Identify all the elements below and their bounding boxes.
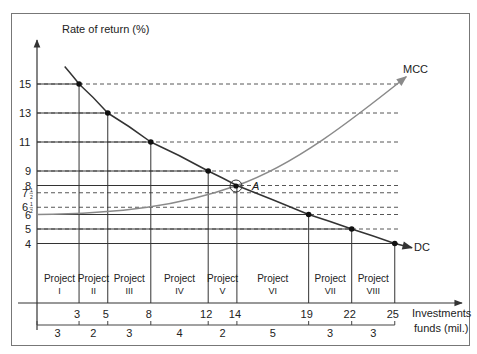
dc-point: [76, 81, 82, 87]
y-tick-label: 15: [19, 78, 31, 90]
y-tick-label: 4: [25, 238, 31, 250]
project-name: Project: [207, 273, 238, 284]
y-tick-label: 13: [19, 107, 31, 119]
dc-point: [306, 212, 312, 218]
project-size: 3: [54, 327, 60, 339]
project-name: Project: [358, 273, 389, 284]
project-size: 3: [126, 327, 132, 339]
project-size: 2: [90, 327, 96, 339]
dc-point: [205, 168, 211, 174]
project-numeral: VII: [325, 286, 336, 296]
project-numeral: VI: [269, 286, 278, 296]
y-axis-label: Rate of return (%): [62, 23, 149, 35]
y-tick-labels: 15131198712612654: [19, 78, 33, 250]
x-tick-label: 14: [229, 308, 241, 320]
y-tick-label: 5: [25, 223, 31, 235]
project-name: Project: [315, 273, 346, 284]
project-numeral: VIII: [366, 286, 380, 296]
x-axis-label-line1: Investments: [412, 307, 472, 319]
x-tick-label: 3: [74, 308, 80, 320]
x-tick-labels: 3581214192225: [74, 308, 399, 320]
dc-point: [349, 226, 355, 232]
chart-frame: [12, 14, 470, 346]
y-tick-label: 11: [19, 136, 30, 148]
project-size: 5: [270, 327, 276, 339]
project-size: 2: [219, 327, 225, 339]
y-tick-fraction: 2: [30, 194, 33, 200]
dc-point: [105, 110, 111, 116]
y-tick-fraction: 1: [30, 187, 33, 193]
project-name: Project: [257, 273, 288, 284]
project-dividers: [79, 84, 395, 303]
dc-curve: [65, 67, 412, 248]
x-axis-label-line2: funds (mil.): [414, 322, 468, 334]
guide-lines: [37, 84, 400, 244]
project-name: Project: [164, 273, 195, 284]
investment-chart: Rate of return (%) Investments funds (mi…: [0, 0, 477, 354]
x-tick-label: 8: [146, 308, 152, 320]
project-labels: ProjectIProjectIIProjectIIIProjectIVProj…: [44, 273, 389, 296]
y-tick-label: 9: [25, 165, 31, 177]
project-numeral: I: [58, 286, 61, 296]
y-tick-label: 6: [25, 209, 31, 221]
dc-point: [392, 241, 398, 247]
project-name: Project: [44, 273, 75, 284]
dc-label: DC: [414, 241, 430, 253]
x-tick-label: 19: [301, 308, 313, 320]
project-size-bracket: 32342533: [37, 321, 395, 339]
x-tick-label: 5: [103, 308, 109, 320]
x-tick-label: 25: [387, 308, 399, 320]
project-name: Project: [78, 273, 109, 284]
intersection-point: [233, 183, 238, 188]
project-numeral: III: [126, 286, 134, 296]
x-tick-label: 22: [344, 308, 356, 320]
y-tick-fraction: 1: [30, 201, 33, 207]
project-name: Project: [114, 273, 145, 284]
project-numeral: II: [91, 286, 96, 296]
dc-point: [148, 139, 154, 145]
project-size: 3: [370, 327, 376, 339]
x-tick-label: 12: [200, 308, 212, 320]
project-size: 3: [327, 327, 333, 339]
mcc-label: MCC: [403, 63, 428, 75]
project-size: 4: [176, 327, 182, 339]
rate-level-lines: [37, 84, 395, 244]
intersection-label: A: [251, 180, 259, 192]
project-numeral: V: [220, 286, 226, 296]
y-tick-label: 7: [22, 187, 28, 199]
project-numeral: IV: [175, 286, 184, 296]
